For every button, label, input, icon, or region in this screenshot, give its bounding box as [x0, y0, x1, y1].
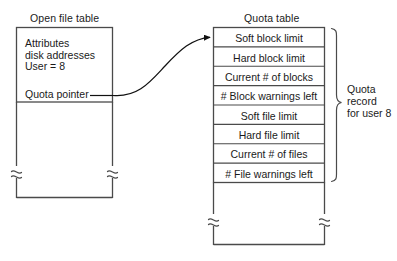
quota-row-soft-block-limit: Soft block limit — [214, 32, 324, 44]
quota-row-current-number-of-files: Current # of files — [214, 148, 324, 160]
quota-table-row-separators — [214, 47, 325, 163]
open-file-table-break-marks — [12, 171, 118, 179]
break-squiggle-left-upper — [12, 171, 22, 174]
break-squiggle-left-lower — [12, 176, 22, 179]
quota-record-annotation-line-2: record — [347, 96, 377, 108]
quota-row-soft-file-limit: Soft file limit — [214, 110, 324, 122]
open-file-table-entry-user: User = 8 — [25, 61, 65, 73]
open-file-table-quota-pointer-label: Quota pointer — [25, 89, 89, 101]
quota-break-squiggle-right-upper — [320, 219, 330, 222]
quota-row-hard-block-limit: Hard block limit — [214, 52, 324, 64]
quota-break-squiggle-left-lower — [209, 224, 219, 227]
quota-row-block-warnings-left: # Block warnings left — [214, 90, 324, 102]
quota-record-brace — [332, 29, 342, 182]
quota-row-hard-file-limit: Hard file limit — [214, 129, 324, 141]
break-squiggle-right-upper — [108, 171, 118, 174]
quota-break-squiggle-right-lower — [320, 224, 330, 227]
quota-row-file-warnings-left: # File warnings left — [214, 168, 324, 180]
quota-record-brace-path — [332, 29, 342, 182]
quota-record-annotation-line-3: for user 8 — [347, 108, 391, 120]
diagram-canvas: Open file table Quota table Attributes d… — [0, 0, 397, 261]
open-file-table-title: Open file table — [30, 12, 99, 24]
quota-table-break-marks — [209, 219, 330, 227]
quota-pointer-arrow — [90, 37, 210, 95]
quota-break-squiggle-left-upper — [209, 219, 219, 222]
break-squiggle-right-lower — [108, 176, 118, 179]
quota-row-current-number-of-blocks: Current # of blocks — [214, 71, 324, 83]
quota-pointer-curve — [113, 37, 210, 95]
open-file-table-entry-attributes: Attributes — [25, 38, 69, 50]
quota-table-title: Quota table — [244, 12, 299, 24]
